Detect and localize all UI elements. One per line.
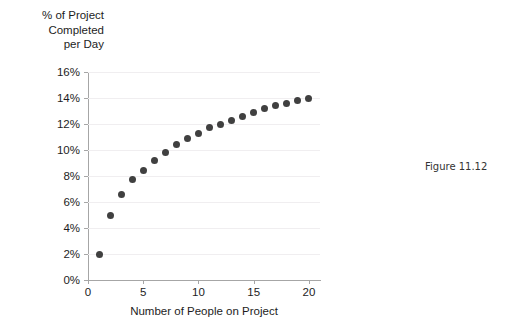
y-gridline xyxy=(88,254,320,255)
data-point xyxy=(206,124,213,131)
y-tick-label: 6% xyxy=(63,196,80,208)
y-tick-label: 16% xyxy=(57,66,80,78)
data-point xyxy=(140,167,147,174)
plot-area: 0%2%4%6%8%10%12%14%16% 05101520 xyxy=(88,72,320,280)
y-tick-mark xyxy=(84,72,88,73)
data-point xyxy=(107,212,114,219)
y-tick-label: 14% xyxy=(57,92,80,104)
data-point xyxy=(151,157,158,164)
figure-caption: Figure 11.12 xyxy=(425,161,487,172)
chart-canvas: % of Project Completed per Day 0%2%4%6%8… xyxy=(0,0,516,330)
y-axis-title: % of Project Completed per Day xyxy=(0,8,104,52)
data-point xyxy=(250,109,257,116)
data-point xyxy=(239,113,246,120)
y-gridline xyxy=(88,176,320,177)
data-point xyxy=(261,105,268,112)
x-tick-mark xyxy=(143,280,144,284)
y-tick-label: 0% xyxy=(63,274,80,286)
y-gridline xyxy=(88,98,320,99)
data-point xyxy=(96,251,103,258)
y-gridline xyxy=(88,124,320,125)
y-tick-label: 12% xyxy=(57,118,80,130)
y-gridline xyxy=(88,228,320,229)
data-point xyxy=(294,97,301,104)
data-point xyxy=(173,141,180,148)
x-tick-label: 20 xyxy=(303,286,316,298)
data-point xyxy=(118,191,125,198)
data-point xyxy=(162,149,169,156)
data-point xyxy=(305,95,312,102)
y-tick-label: 2% xyxy=(63,248,80,260)
y-tick-mark xyxy=(84,202,88,203)
y-tick-mark xyxy=(84,176,88,177)
y-tick-label: 4% xyxy=(63,222,80,234)
y-gridline xyxy=(88,72,320,73)
y-tick-label: 8% xyxy=(63,170,80,182)
x-axis-title: Number of People on Project xyxy=(88,305,320,317)
x-tick-label: 5 xyxy=(140,286,146,298)
y-tick-mark xyxy=(84,124,88,125)
y-tick-mark xyxy=(84,98,88,99)
y-tick-label: 10% xyxy=(57,144,80,156)
x-tick-mark xyxy=(198,280,199,284)
data-point xyxy=(217,121,224,128)
data-point xyxy=(272,102,279,109)
x-tick-label: 15 xyxy=(247,286,260,298)
x-tick-label: 0 xyxy=(85,286,91,298)
data-point xyxy=(184,135,191,142)
y-gridline xyxy=(88,202,320,203)
y-tick-mark xyxy=(84,254,88,255)
x-tick-mark xyxy=(254,280,255,284)
data-point xyxy=(195,130,202,137)
x-axis-line xyxy=(88,280,321,281)
y-tick-mark xyxy=(84,150,88,151)
data-point xyxy=(228,117,235,124)
y-tick-mark xyxy=(84,228,88,229)
data-point xyxy=(283,100,290,107)
data-point xyxy=(129,176,136,183)
x-tick-mark xyxy=(309,280,310,284)
x-tick-label: 10 xyxy=(192,286,205,298)
x-tick-mark xyxy=(88,280,89,284)
y-gridline xyxy=(88,150,320,151)
